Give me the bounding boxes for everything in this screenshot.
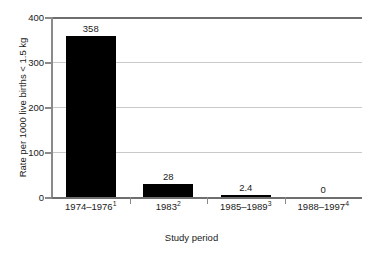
y-tick-200: [45, 107, 52, 109]
category-label: 19832: [156, 201, 181, 212]
x-tick: [285, 197, 286, 204]
bar-chart: Rate per 1000 live births < 1.5 kg 01002…: [0, 0, 383, 257]
category-label-text: 1974–1976: [65, 201, 113, 212]
category-label-text: 1985–1989: [220, 201, 268, 212]
bar-value-label: 28: [163, 171, 174, 182]
category-footnote-marker: 2: [177, 200, 181, 207]
x-axis-title: Study period: [0, 232, 383, 243]
x-tick: [207, 197, 208, 204]
category-footnote-marker: 4: [345, 200, 349, 207]
plot-area: 0100200300400: [52, 17, 362, 197]
bar-value-label: 2.4: [239, 182, 252, 193]
category-label: 1985–19893: [220, 201, 271, 212]
x-tick: [130, 197, 131, 204]
category-label-text: 1983: [156, 201, 177, 212]
bar-value-label: 0: [321, 184, 326, 195]
y-tick-label-200: 200: [14, 102, 44, 113]
bar: [143, 184, 193, 197]
y-tick-100: [45, 152, 52, 154]
category-label: 1988–19974: [298, 201, 349, 212]
gridline-400: [52, 17, 362, 19]
y-tick-label-0: 0: [14, 192, 44, 203]
bar: [221, 195, 271, 197]
y-tick-300: [45, 62, 52, 64]
y-tick-400: [45, 17, 52, 19]
category-label-text: 1988–1997: [298, 201, 346, 212]
category-footnote-marker: 3: [268, 200, 272, 207]
y-tick-0: [45, 197, 52, 199]
category-label: 1974–19761: [65, 201, 116, 212]
y-tick-label-300: 300: [14, 57, 44, 68]
y-tick-label-100: 100: [14, 147, 44, 158]
category-footnote-marker: 1: [113, 200, 117, 207]
bar: [66, 36, 116, 197]
y-tick-label-400: 400: [14, 12, 44, 23]
bar-value-label: 358: [83, 23, 99, 34]
